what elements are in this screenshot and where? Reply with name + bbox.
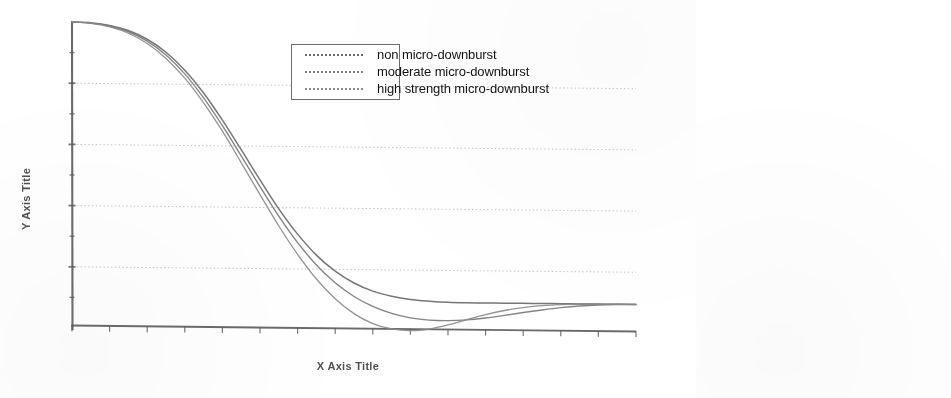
gridlines: [73, 83, 636, 272]
legend-swatch-series-3: [305, 88, 363, 90]
legend-label-series-1: non micro-downburst: [377, 48, 497, 62]
y-axis-title: Y Axis Title: [20, 159, 32, 239]
legend-swatch-series-2: [305, 71, 363, 73]
legend-swatch-series-1: [305, 54, 363, 56]
x-axis-line: [71, 326, 636, 332]
legend-item-non-micro-downburst[interactable]: non micro-downburst: [291, 46, 497, 64]
gridline: [73, 206, 636, 212]
chart-legend[interactable]: non micro-downburst moderate micro-downb…: [291, 44, 951, 102]
x-axis-title: X Axis Title: [268, 360, 428, 372]
gridline: [73, 144, 636, 150]
legend-item-high-strength-micro-downburst[interactable]: high strength micro-downburst: [291, 80, 549, 98]
legend-label-series-3: high strength micro-downburst: [377, 82, 549, 96]
legend-label-series-2: moderate micro-downburst: [377, 65, 529, 79]
y-axis-line: [72, 21, 73, 330]
gridline: [73, 267, 636, 273]
legend-item-moderate-micro-downburst[interactable]: moderate micro-downburst: [291, 63, 529, 81]
